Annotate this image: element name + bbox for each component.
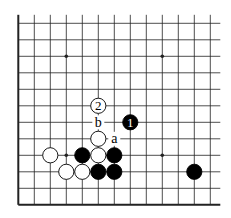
star-point-icon bbox=[161, 154, 165, 158]
star-point-icon bbox=[161, 55, 165, 59]
move-number: 1 bbox=[127, 115, 134, 130]
black-stone bbox=[91, 164, 106, 179]
point-label-b: b bbox=[95, 115, 102, 130]
go-board: ba 21 bbox=[0, 0, 231, 218]
black-stone bbox=[107, 164, 122, 179]
black-stone bbox=[75, 148, 90, 163]
white-stone bbox=[91, 148, 106, 163]
move-number: 2 bbox=[95, 98, 102, 113]
white-stone bbox=[59, 164, 74, 179]
white-stone bbox=[43, 148, 58, 163]
star-point-icon bbox=[65, 154, 69, 158]
black-stone bbox=[187, 164, 202, 179]
white-stone bbox=[91, 131, 106, 146]
white-stone bbox=[75, 164, 90, 179]
star-point-icon bbox=[65, 55, 69, 59]
black-stone bbox=[107, 148, 122, 163]
point-label-a: a bbox=[111, 131, 118, 146]
